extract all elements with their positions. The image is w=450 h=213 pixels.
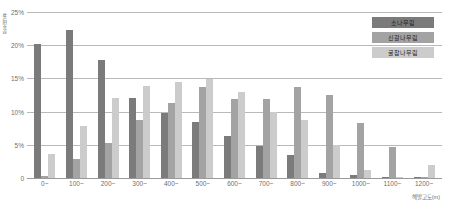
x-tick-label: 400~ <box>155 180 187 192</box>
bar <box>364 170 371 178</box>
elevation-forest-type-bar-chart: 분포비율 05%10%15%20%25% 0~100~200~300~400~5… <box>0 0 450 213</box>
bar <box>256 146 263 178</box>
x-tick-label: 100~ <box>61 180 93 192</box>
gridline-0 <box>27 178 442 179</box>
bar <box>396 177 403 178</box>
bar <box>319 173 326 178</box>
bar <box>224 136 231 178</box>
bar <box>112 98 119 178</box>
legend-item-1[interactable]: 신갈나무림 <box>372 32 434 43</box>
bar-group-500 <box>187 12 219 178</box>
y-tick-label: 5% <box>15 141 24 148</box>
x-tick-label: 600~ <box>219 180 251 192</box>
bar-group-600 <box>219 12 251 178</box>
bar <box>389 147 396 178</box>
x-tick-label: 300~ <box>124 180 156 192</box>
y-tick-label: 15% <box>11 75 24 82</box>
bar <box>333 145 340 178</box>
bar-group-0 <box>29 12 61 178</box>
bar-group-800 <box>282 12 314 178</box>
bar-group-400 <box>155 12 187 178</box>
bar <box>263 99 270 178</box>
bar <box>66 30 73 178</box>
x-tick-label: 200~ <box>92 180 124 192</box>
y-tick-label: 0 <box>20 175 24 182</box>
bar-group-100 <box>61 12 93 178</box>
bar-group-300 <box>124 12 156 178</box>
bar <box>357 123 364 178</box>
legend-item-0[interactable]: 소나무림 <box>372 17 434 28</box>
bar <box>168 103 175 178</box>
bar <box>231 99 238 178</box>
bar <box>287 155 294 178</box>
bar <box>350 175 357 178</box>
bar <box>129 98 136 178</box>
bar <box>428 165 435 178</box>
y-axis-tick-labels: 05%10%15%20%25% <box>0 12 27 178</box>
bar <box>270 112 277 178</box>
y-tick-label: 10% <box>11 108 24 115</box>
legend-item-2[interactable]: 굴참나무림 <box>372 47 434 58</box>
x-tick-label: 700~ <box>250 180 282 192</box>
bar <box>136 120 143 178</box>
bar-group-900 <box>313 12 345 178</box>
bar <box>48 154 55 178</box>
legend: 소나무림신갈나무림굴참나무림 <box>372 17 434 58</box>
bar-group-200 <box>92 12 124 178</box>
bar <box>98 60 105 178</box>
x-tick-label: 900~ <box>313 180 345 192</box>
x-tick-label: 500~ <box>187 180 219 192</box>
bar <box>192 122 199 178</box>
x-tick-label: 1200~ <box>408 180 440 192</box>
bar <box>294 87 301 178</box>
bar <box>73 159 80 178</box>
bar <box>80 126 87 178</box>
bar <box>143 86 150 178</box>
bar <box>206 79 213 178</box>
bar <box>421 177 428 178</box>
bar <box>238 92 245 178</box>
bar-group-700 <box>250 12 282 178</box>
bar <box>105 143 112 178</box>
x-axis-title: 해발고도(m) <box>412 193 440 201</box>
x-axis-tick-labels: 0~100~200~300~400~500~600~700~800~900~10… <box>27 180 442 192</box>
bar <box>382 177 389 178</box>
y-tick-label: 25% <box>11 9 24 16</box>
bar <box>414 177 421 178</box>
x-tick-label: 1100~ <box>377 180 409 192</box>
x-tick-label: 0~ <box>29 180 61 192</box>
bar <box>161 113 168 178</box>
bar <box>326 95 333 178</box>
bar <box>175 82 182 178</box>
x-tick-label: 800~ <box>282 180 314 192</box>
x-tick-label: 1000~ <box>345 180 377 192</box>
y-tick-label: 20% <box>11 42 24 49</box>
bar <box>34 44 41 178</box>
bar <box>199 87 206 178</box>
bar <box>301 120 308 178</box>
bar <box>41 176 48 178</box>
